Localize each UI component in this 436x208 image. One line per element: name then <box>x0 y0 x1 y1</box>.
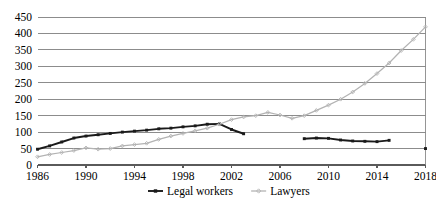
y-axis-tick-label: 350 <box>15 44 33 56</box>
y-axis-tick-label: 100 <box>15 126 33 138</box>
data-point-marker <box>154 189 157 192</box>
data-point-marker <box>376 140 379 143</box>
data-point-marker <box>242 132 245 135</box>
legend-item-label: Lawyers <box>270 185 310 198</box>
data-point-marker <box>60 141 63 144</box>
data-point-marker <box>169 127 172 130</box>
legend: Legal workersLawyers <box>148 185 310 198</box>
y-axis-tick-label: 450 <box>15 11 33 23</box>
x-axis-tick-label: 1986 <box>26 170 49 182</box>
data-point-marker <box>109 132 112 135</box>
x-axis-tick-label: 2018 <box>414 170 436 182</box>
legend-item-label: Legal workers <box>167 185 234 198</box>
data-point-marker <box>230 128 233 131</box>
y-axis-tick-label: 300 <box>15 60 33 72</box>
data-point-marker <box>206 123 209 126</box>
x-axis-tick-label: 2010 <box>317 170 340 182</box>
data-point-marker <box>339 139 342 142</box>
data-point-marker <box>182 125 185 128</box>
data-point-marker <box>303 137 306 140</box>
data-point-marker <box>85 135 88 138</box>
x-axis-tick-label: 1998 <box>172 170 195 182</box>
data-point-marker <box>145 129 148 132</box>
data-point-marker <box>363 140 366 143</box>
data-point-marker <box>424 147 427 150</box>
line-chart: 0501001502002503003504004501986199019941… <box>0 0 436 208</box>
y-axis-tick-label: 200 <box>15 93 33 105</box>
data-point-marker <box>97 133 100 136</box>
x-axis-tick-label: 2002 <box>220 170 243 182</box>
y-axis-tick-label: 400 <box>15 27 33 39</box>
data-point-marker <box>327 137 330 140</box>
data-point-marker <box>121 131 124 134</box>
x-axis-tick-label: 1990 <box>75 170 98 182</box>
data-point-marker <box>194 124 197 127</box>
x-axis-tick-label: 1994 <box>123 170 146 182</box>
data-point-marker <box>133 130 136 133</box>
data-point-marker <box>351 140 354 143</box>
x-axis-tick-label: 2014 <box>366 170 389 182</box>
data-point-marker <box>48 144 51 147</box>
series-line <box>38 124 244 149</box>
y-axis-tick-label: 50 <box>21 143 33 155</box>
data-point-marker <box>315 137 318 140</box>
gridlines: 050100150200250300350400450 <box>15 11 426 171</box>
series-lawyers <box>36 25 428 159</box>
y-axis-tick-label: 250 <box>15 77 33 89</box>
x-axis-ticks: 198619901994199820022006201020142018 <box>26 165 436 182</box>
data-point-marker <box>388 139 391 142</box>
data-point-marker <box>157 127 160 130</box>
chart-canvas: 0501001502002503003504004501986199019941… <box>0 0 436 208</box>
x-axis-tick-label: 2006 <box>269 170 292 182</box>
y-axis-tick-label: 150 <box>15 110 33 122</box>
series-legal-workers <box>36 122 427 150</box>
series-line <box>38 27 426 157</box>
data-point-marker <box>36 148 39 151</box>
data-point-marker <box>72 137 75 140</box>
